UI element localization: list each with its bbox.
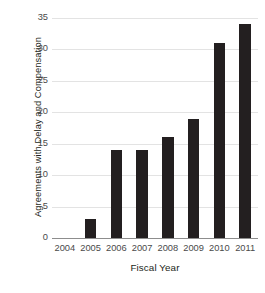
x-axis-line	[52, 238, 258, 239]
bar	[188, 119, 200, 238]
bar-chart: Agreements with Delay and Compensation 0…	[0, 0, 265, 293]
y-tick-label: 30	[28, 45, 48, 54]
x-tick-label: 2006	[104, 241, 130, 255]
bar	[239, 24, 251, 238]
bar	[136, 150, 148, 238]
y-tick-label: 10	[28, 170, 48, 179]
x-tick-label: 2011	[232, 241, 258, 255]
bar	[214, 43, 226, 238]
x-tick-label: 2005	[78, 241, 104, 255]
bars-group	[52, 18, 258, 238]
y-tick-label: 20	[28, 108, 48, 117]
x-axis-tick-labels: 20042005200620072008200920102011	[52, 241, 258, 257]
x-tick-label: 2010	[207, 241, 233, 255]
x-tick-label: 2008	[155, 241, 181, 255]
y-tick-label: 15	[28, 139, 48, 148]
y-axis-tick-labels: 05101520253035	[27, 0, 48, 293]
bar	[162, 137, 174, 238]
bar	[111, 150, 123, 238]
y-tick-label: 5	[28, 202, 48, 211]
plot-area	[52, 18, 258, 238]
y-tick-label: 35	[28, 13, 48, 22]
x-tick-label: 2007	[129, 241, 155, 255]
x-axis-title: Fiscal Year	[52, 262, 258, 273]
bar	[85, 219, 97, 238]
x-tick-label: 2009	[181, 241, 207, 255]
x-tick-label: 2004	[52, 241, 78, 255]
y-tick-label: 0	[28, 233, 48, 242]
y-tick-label: 25	[28, 76, 48, 85]
